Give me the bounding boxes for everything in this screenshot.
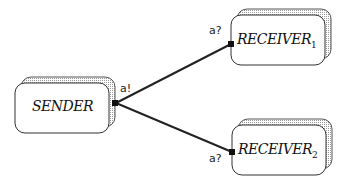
receiver1-name: RECEIVER — [237, 31, 311, 47]
receiver1-subscript: 1 — [311, 40, 316, 50]
sender-port-label: a! — [120, 82, 131, 95]
receiver2-port-label: a? — [209, 152, 222, 165]
channel-to-receiver1 — [116, 44, 231, 103]
channel-to-receiver2 — [116, 103, 232, 152]
receiver2-port — [229, 149, 235, 155]
receiver2-label: RECEIVER2 — [238, 141, 317, 160]
receiver2-subscript: 2 — [312, 150, 317, 160]
sender-label: SENDER — [32, 98, 93, 114]
receiver1-port — [228, 41, 234, 47]
receiver1-port-label: a? — [209, 24, 222, 37]
diagram-canvas: SENDER RECEIVER1 RECEIVER2 a! a? a? — [0, 0, 347, 180]
sender-port — [112, 100, 118, 106]
receiver2-name: RECEIVER — [238, 141, 312, 157]
receiver1-label: RECEIVER1 — [237, 31, 316, 50]
